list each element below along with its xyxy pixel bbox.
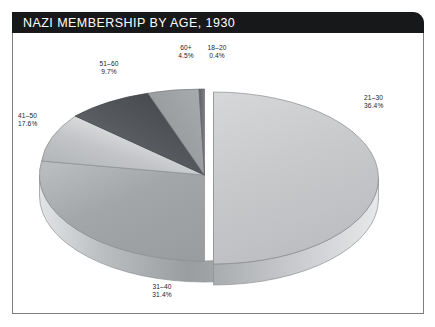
- page-title: NAZI MEMBERSHIP BY AGE, 1930: [23, 16, 235, 30]
- chart-figure: NAZI MEMBERSHIP BY AGE, 1930: [0, 0, 435, 327]
- pie-label-60-plus: 60+ 4.5%: [178, 44, 194, 60]
- pie-label-51-60-name: 51–60: [99, 60, 118, 68]
- pie-label-60-plus-value: 4.5%: [178, 52, 194, 60]
- pie-label-21-30-value: 36.4%: [364, 102, 383, 110]
- pie-label-51-60-value: 9.7%: [99, 68, 118, 76]
- pie-label-18-20-value: 0.4%: [207, 52, 226, 60]
- pie-label-41-50: 41–50 17.6%: [18, 112, 37, 128]
- chart-plot-frame: [12, 33, 424, 314]
- pie-label-18-20: 18–20 0.4%: [207, 44, 226, 60]
- pie-label-51-60: 51–60 9.7%: [99, 60, 118, 76]
- pie-label-31-40: 31–40 31.4%: [152, 283, 171, 299]
- pie-label-18-20-name: 18–20: [207, 44, 226, 52]
- pie-label-21-30: 21–30 36.4%: [364, 94, 383, 110]
- pie-label-41-50-name: 41–50: [18, 112, 37, 120]
- pie-label-31-40-value: 31.4%: [152, 291, 171, 299]
- chart-title-bar: NAZI MEMBERSHIP BY AGE, 1930: [12, 12, 424, 33]
- pie-label-21-30-name: 21–30: [364, 94, 383, 102]
- pie-label-41-50-value: 17.6%: [18, 120, 37, 128]
- pie-label-31-40-name: 31–40: [152, 283, 171, 291]
- pie-label-60-plus-name: 60+: [178, 44, 194, 52]
